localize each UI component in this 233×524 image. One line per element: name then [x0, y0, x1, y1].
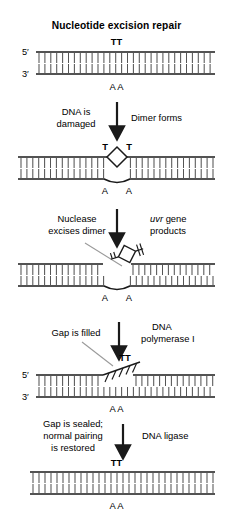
- caption-uvr-gene: uvr gene: [150, 213, 187, 224]
- caption-dna-is: DNA is: [62, 106, 91, 117]
- transition-ligase: Gap is sealed; normal pairing is restore…: [43, 418, 188, 453]
- caption-gap-is-sealed: Gap is sealed;: [43, 418, 103, 429]
- adenine-right-2: A: [126, 185, 133, 196]
- caption-is-restored: is restored: [51, 442, 95, 453]
- bottom-bases-4: A A: [109, 403, 124, 414]
- three-prime-label-1: 3′: [22, 69, 29, 79]
- bottom-bases-5: A A: [109, 500, 124, 511]
- caption-polymerase-i: polymerase I: [141, 333, 195, 344]
- transition-damage: DNA is damaged Dimer forms: [56, 102, 182, 129]
- caption-dimer-forms: Dimer forms: [131, 112, 182, 123]
- excised-diamond: [116, 243, 139, 266]
- panel-normal-dna: TT 5′ 3′: [22, 36, 215, 92]
- adenine-left-2: A: [102, 185, 109, 196]
- figure-canvas: Nucleotide excision repair TT 5′ 3′: [0, 0, 233, 524]
- caption-dna-ligase: DNA ligase: [142, 430, 188, 441]
- panel-gap-filled: TT 5′ 3′: [22, 352, 215, 414]
- dna-rungs-1: [39, 52, 210, 74]
- bottom-bases-1: A A: [109, 81, 124, 92]
- dna-rungs-5: [33, 472, 213, 494]
- dna-rungs-3: [21, 264, 213, 287]
- caption-gap-is-filled: Gap is filled: [52, 327, 101, 338]
- dna-rungs-2: [21, 157, 213, 180]
- panel-dimer: T T: [18, 141, 215, 196]
- figure-title: Nucleotide excision repair: [52, 20, 181, 31]
- adenine-right-3: A: [126, 292, 133, 303]
- leader-line-gap-filled: [82, 342, 113, 366]
- top-bases-1: TT: [111, 36, 123, 47]
- panel-sealed: TT: [30, 457, 215, 511]
- caption-nuclease: Nuclease: [57, 213, 96, 224]
- nucleotide-excision-repair-figure: Nucleotide excision repair TT 5′ 3′: [0, 0, 233, 524]
- three-prime-label-4: 3′: [22, 392, 29, 402]
- caption-gene-rest: gene: [163, 213, 186, 224]
- caption-uvr-italic: uvr: [150, 213, 164, 224]
- dna-bottom-rail-3: [18, 286, 215, 290]
- thymine-dimer-diamond: [107, 147, 127, 167]
- thymine-left-2: T: [102, 141, 108, 152]
- top-bases-5: TT: [111, 457, 123, 468]
- panel-excision: A A: [18, 240, 215, 303]
- five-prime-label-4: 5′: [22, 370, 29, 380]
- dna-rungs-4: [39, 375, 213, 397]
- dna-bottom-rail-2: [18, 179, 215, 183]
- caption-damaged: damaged: [56, 118, 95, 129]
- adenine-left-3: A: [102, 292, 109, 303]
- caption-dna: DNA: [152, 321, 173, 332]
- top-bases-4: TT: [119, 352, 131, 363]
- caption-excises-dimer: excises dimer: [48, 225, 105, 236]
- caption-products: products: [150, 225, 186, 236]
- caption-normal-pairing: normal pairing: [43, 430, 102, 441]
- thymine-right-2: T: [126, 141, 132, 152]
- five-prime-label-1: 5′: [22, 47, 29, 57]
- leader-line-nuclease: [85, 243, 122, 266]
